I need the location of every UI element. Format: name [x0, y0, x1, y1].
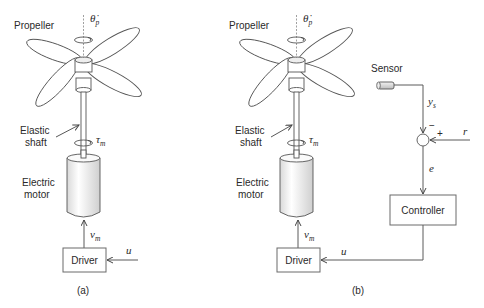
controller-label: Controller	[401, 205, 445, 216]
control-signal-label: u	[341, 245, 347, 257]
sensor-label: Sensor	[371, 63, 403, 74]
caption-a: (a)	[77, 285, 89, 296]
shaft-label-line1: Elastic	[20, 125, 49, 136]
sensor-icon	[377, 82, 394, 89]
sensor-feedback-line	[394, 85, 423, 133]
plus-sign: +	[437, 128, 443, 139]
panel-b: Propeller θ̇p Elastic shaft τm Electric …	[229, 12, 470, 296]
input-label: u	[126, 244, 132, 256]
motor-label-line2: motor	[238, 189, 264, 200]
electric-motor-icon	[67, 150, 100, 217]
reference-label: r	[463, 125, 468, 137]
motor-label-line1: Electric	[22, 177, 55, 188]
driver-label: Driver	[285, 255, 312, 266]
control-signal-line	[321, 225, 423, 260]
panel-a: Propeller θ̇p Elastic shaft τm Electric …	[14, 12, 145, 296]
propeller-label: Propeller	[14, 20, 55, 31]
caption-b: (b)	[352, 285, 364, 296]
propeller-speed-label: θ̇p	[90, 12, 99, 27]
shaft-label-line2: shaft	[25, 137, 47, 148]
minus-sign: −	[429, 120, 435, 131]
propeller-label: Propeller	[229, 20, 270, 31]
torque-label: τm	[309, 133, 319, 148]
voltage-label: vm	[304, 228, 315, 243]
motor-label-line2: motor	[24, 189, 50, 200]
voltage-label: vm	[90, 228, 101, 243]
torque-label: τm	[96, 133, 106, 148]
motor-label-line1: Electric	[236, 177, 269, 188]
summing-junction	[417, 134, 429, 146]
elastic-shaft-icon	[56, 92, 93, 158]
shaft-label-line2: shaft	[240, 137, 262, 148]
driver-label: Driver	[71, 255, 98, 266]
figure: Propeller θ̇p Elastic shaft τm Electric …	[0, 0, 484, 308]
propeller-speed-label: θ̇p	[303, 12, 312, 27]
sensor-output-label: ys	[427, 95, 436, 110]
error-label: e	[429, 162, 434, 174]
electric-motor-icon	[280, 150, 313, 217]
elastic-shaft-icon	[271, 92, 306, 158]
shaft-label-line1: Elastic	[235, 125, 264, 136]
